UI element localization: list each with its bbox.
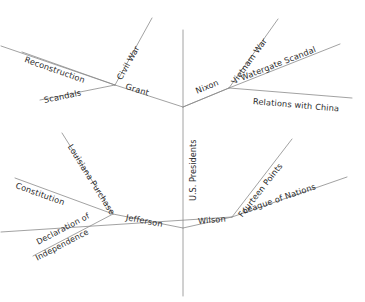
branch-grant-extension [183, 107, 248, 128]
trunk-label: U.S. Presidents [188, 140, 198, 201]
branch-relations-with-china [229, 88, 352, 98]
mindmap-canvas: U.S. Presidents Grant Civil War Reconstr… [0, 0, 365, 302]
